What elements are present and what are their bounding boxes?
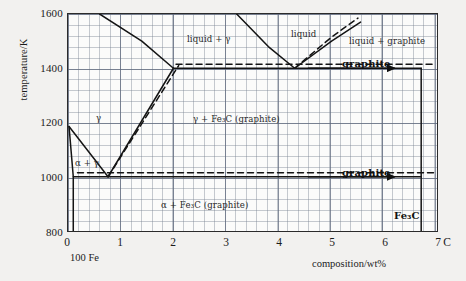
curve [108, 68, 173, 177]
curve [69, 127, 73, 231]
x-tick-2: 2 [170, 236, 176, 248]
phase-diagram-figure: temperature/K 1600 1400 1200 1000 800 0 … [0, 0, 466, 281]
region-label-alpha-fe3c: α + Fe₃C (graphite) [161, 200, 248, 210]
y-tick-1400: 1400 [40, 62, 63, 74]
x-tick-3: 3 [223, 236, 229, 248]
region-label-alpha-gamma: α + γ [75, 158, 99, 168]
x-tick-6: 6 [382, 236, 388, 248]
x-tick-0: 0 [64, 236, 70, 248]
x-axis-carbon-designation: C [443, 236, 451, 248]
curve [100, 14, 174, 68]
y-axis-ticks: 1600 1400 1200 1000 800 [0, 0, 63, 281]
region-label-gamma-fe3c: γ + Fe₃C (graphite) [193, 114, 280, 124]
x-tick-4: 4 [276, 236, 282, 248]
y-tick-1200: 1200 [40, 116, 63, 128]
y-tick-800: 800 [46, 226, 63, 238]
region-label-liquid-graphite: liquid + graphite [349, 36, 425, 46]
plot-area: γα + γliquid + γliquidliquid + graphiteγ… [67, 13, 438, 232]
curve [108, 66, 179, 177]
region-label-liquid-gamma: liquid + γ [187, 34, 231, 44]
x-axis-label: composition/wt% [312, 258, 386, 269]
region-label-liquid: liquid [291, 29, 316, 39]
region-label-graphite-upper: graphite [342, 58, 391, 69]
origin-composition-label: 100 Fe [70, 252, 99, 263]
y-tick-1600: 1600 [40, 7, 63, 19]
region-label-graphite-lower: graphite [342, 167, 391, 178]
region-label-gamma: γ [96, 113, 101, 123]
x-tick-7: 7 [435, 236, 441, 248]
region-label-fe3c: Fe₃C [394, 210, 420, 221]
curve [237, 14, 295, 68]
x-tick-5: 5 [329, 236, 335, 248]
y-tick-1000: 1000 [40, 171, 63, 183]
curve [69, 127, 108, 177]
x-tick-1: 1 [117, 236, 123, 248]
